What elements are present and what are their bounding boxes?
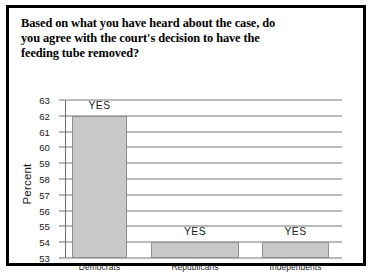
y-tick-mark [59,210,65,211]
chart-frame: Based on what you have heard about the c… [6,5,366,266]
y-tick-label: 61 [39,126,50,137]
chart-title-line-1: Based on what you have heard about the c… [21,16,347,31]
y-tick-mark [59,100,65,101]
y-tick-mark [59,179,65,180]
x-category-label: Democrats [79,262,120,272]
chart-title: Based on what you have heard about the c… [21,16,347,62]
bar-value-label: YES [184,226,206,237]
bar-value-label: YES [285,226,307,237]
y-tick-label: 54 [39,237,50,248]
bar-democrats [72,116,127,258]
chart-title-line-2: you agree with the court's decision to h… [21,31,347,46]
y-tick-label: 63 [39,95,50,106]
y-tick-mark [59,194,65,195]
plot-area: Percent 6362616059585756555453 YESYESYES… [9,82,363,263]
y-tick-mark [59,163,65,164]
y-tick-mark [59,226,65,227]
y-tick-label: 53 [39,253,50,264]
y-tick-mark [59,115,65,116]
y-tick-label: 56 [39,205,50,216]
bar-republicans [151,242,239,258]
y-tick-label: 55 [39,221,50,232]
y-tick-label: 59 [39,158,50,169]
y-tick-mark [59,131,65,132]
y-tick-label: 57 [39,189,50,200]
x-category-label: Republicans [171,262,218,272]
y-tick-mark [59,147,65,148]
y-tick-label: 60 [39,142,50,153]
y-tick-mark [59,258,65,259]
bar-independents [262,242,329,258]
chart-title-line-3: feeding tube removed? [21,46,347,61]
y-tick-label: 62 [39,110,50,121]
y-tick-mark [59,242,65,243]
x-category-label: Independents [270,262,322,272]
y-tick-label: 58 [39,174,50,185]
chart-page: Based on what you have heard about the c… [0,0,378,275]
bar-value-label: YES [89,100,111,111]
y-axis-ticks: 6362616059585756555453 [9,82,65,263]
